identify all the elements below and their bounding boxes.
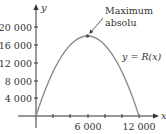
curve-label-prefix: y =: [121, 51, 141, 62]
y-tick-label-20000: 20 000: [0, 22, 32, 33]
annotation-arrow-line: [91, 18, 103, 32]
annotation-maximum-line1: Maximum: [105, 5, 153, 16]
y-axis-label: y: [40, 2, 47, 13]
curve-label: y = R(x): [121, 51, 162, 62]
x-tick-label-12000: 12 000: [122, 121, 155, 132]
chart: y x 20 000 16 000 12 000 8 000 4 000 6 0…: [0, 0, 166, 134]
curve-label-arg: (x): [149, 51, 162, 62]
y-tick-label-4000: 4 000: [5, 93, 32, 104]
maximum-point: [86, 34, 90, 38]
x-tick-label-6000: 6 000: [74, 121, 101, 132]
y-tick-label-8000: 8 000: [5, 76, 32, 87]
y-tick-label-16000: 16 000: [0, 40, 32, 51]
y-tick-label-12000: 12 000: [0, 58, 32, 69]
x-axis-arrow-icon: [153, 114, 159, 119]
annotation-maximum-line2: absolu: [105, 17, 137, 28]
revenue-curve: [36, 36, 139, 116]
x-axis-label: x: [161, 110, 166, 121]
curve-label-func: R: [140, 51, 148, 62]
y-axis-arrow-icon: [34, 4, 39, 10]
